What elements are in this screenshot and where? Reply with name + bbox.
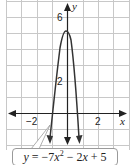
y-axis-down-arrow-icon [64, 137, 71, 145]
eq-mid: − 2 [64, 150, 83, 164]
y-axis-label: y [71, 0, 77, 12]
equation-callout: y = −7x2 − 2x + 5 [12, 148, 118, 165]
y-axis-up-arrow-icon [64, 3, 71, 11]
eq-part: = −7 [29, 150, 55, 164]
curve-right-arrow-icon [76, 135, 83, 144]
eq-tail: + 5 [88, 150, 107, 164]
x-axis-label: x [119, 115, 125, 127]
tick-label-y2: 2 [57, 76, 63, 87]
tick-label-xneg2: −2 [26, 116, 38, 127]
tick-label-x2: 2 [95, 116, 101, 127]
x-axis-left-arrow-icon [8, 110, 16, 117]
tick-label-y6: 6 [57, 12, 63, 23]
parabola-curve [50, 31, 79, 138]
parabola-graph: y x 6 2 −2 2 [0, 0, 132, 165]
